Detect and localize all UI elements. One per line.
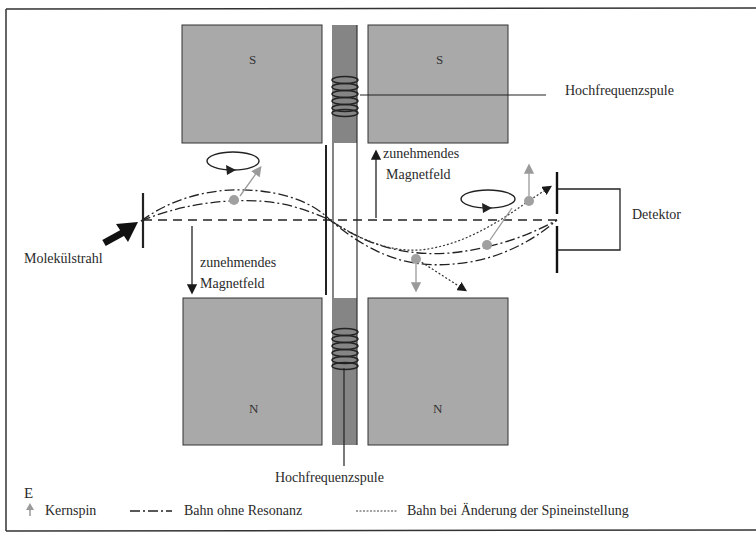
rf-coil-top-label: Hochfrequenzspule (565, 83, 674, 99)
molecular-beam-arrow (104, 222, 138, 243)
field-up-label-line1: zunehmendes (383, 146, 459, 162)
field-down-label-line2: Magnetfeld (200, 276, 265, 292)
magnet-label-top-left: S (249, 52, 256, 68)
magnet-label-top-right: S (436, 52, 443, 68)
precession-loop-left (207, 152, 259, 175)
trajectory-spin-change (330, 187, 550, 290)
spin-right (524, 166, 534, 206)
trajectory-no-resonance (141, 190, 557, 265)
center-column (326, 25, 357, 445)
legend-label-spin-change: Bahn bei Änderung der Spineinstellung (407, 503, 629, 519)
spin-bottom (411, 254, 421, 290)
field-up-label-line2: Magnetfeld (386, 167, 451, 183)
detector (557, 172, 620, 273)
molecular-beam-label: Molekülstrahl (24, 251, 103, 267)
field-down-label-line1: zunehmendes (200, 255, 276, 271)
legend-label-kernspin: Kernspin (45, 503, 96, 519)
detector-label: Detektor (632, 207, 681, 223)
magnet-top-right (368, 25, 508, 143)
precession-loop-right (461, 190, 515, 213)
magnet-label-bottom-left: N (249, 401, 258, 417)
rf-coil-bottom-label: Hochfrequenzspule (275, 470, 384, 486)
magnet-top-left (182, 25, 322, 143)
spin-left (229, 168, 260, 205)
molecular-beam-resonance-diagram (0, 0, 756, 541)
magnet-bottom-right (368, 298, 508, 445)
panel-letter: E (24, 485, 33, 501)
magnet-label-bottom-right: N (433, 401, 442, 417)
legend-label-no-resonance: Bahn ohne Resonanz (184, 503, 302, 519)
magnet-bottom-left (183, 298, 322, 445)
